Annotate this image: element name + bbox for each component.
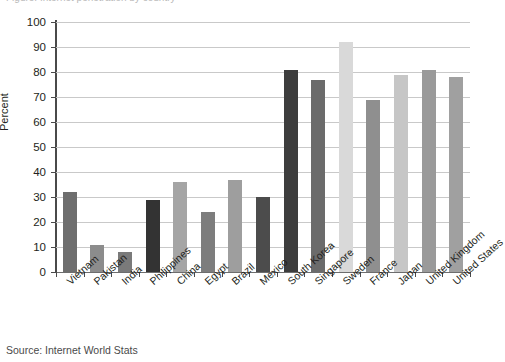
source-note: Source: Internet World Stats	[6, 344, 138, 356]
y-tick-label: 20	[33, 216, 46, 228]
y-tick-label: 70	[33, 91, 46, 103]
x-axis-labels: VietnamPakistanIndiaPhilippinesChinaEgyp…	[0, 272, 483, 342]
y-tick-label: 80	[33, 66, 46, 78]
cropped-caption-sliver: Figure: Internet penetration by country	[0, 0, 483, 9]
bar	[284, 70, 298, 273]
bar	[422, 70, 436, 273]
plot-area	[56, 22, 470, 272]
bar	[256, 197, 270, 272]
y-tick-label: 90	[33, 41, 46, 53]
bar	[63, 192, 77, 272]
y-tick-label: 10	[33, 241, 46, 253]
bar	[394, 75, 408, 273]
bar	[146, 200, 160, 273]
y-tick-label: 40	[33, 166, 46, 178]
bar	[339, 42, 353, 272]
bar	[366, 100, 380, 273]
bar	[228, 180, 242, 273]
y-axis-ticks: 1009080706050403020100	[0, 0, 56, 272]
bar	[201, 212, 215, 272]
y-tick-label: 60	[33, 116, 46, 128]
y-tick-label: 100	[27, 16, 46, 28]
y-tick-label: 50	[33, 141, 46, 153]
bar-series	[56, 22, 470, 272]
y-tick-label: 30	[33, 191, 46, 203]
